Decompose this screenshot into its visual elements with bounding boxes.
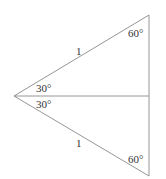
label-bottom-right-angle: 60° <box>128 153 143 165</box>
label-top-left-angle: 30° <box>36 82 51 94</box>
label-top-hypotenuse: 1 <box>76 45 82 57</box>
label-bottom-left-angle: 30° <box>36 98 51 110</box>
triangle-diagram: 1 1 30° 30° 60° 60° <box>0 0 166 179</box>
label-bottom-hypotenuse: 1 <box>76 137 82 149</box>
label-top-right-angle: 60° <box>128 27 143 39</box>
